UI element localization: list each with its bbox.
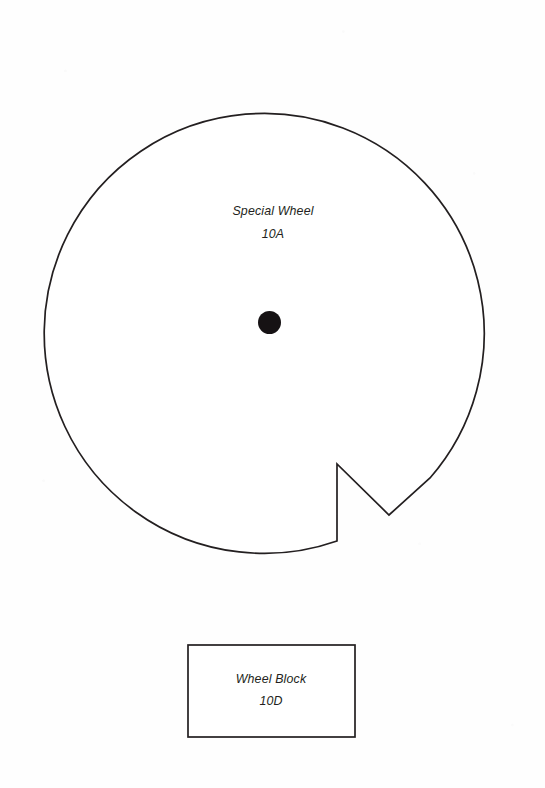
- drawing-sheet: Special Wheel 10A Wheel Block 10D: [0, 0, 545, 788]
- special-wheel-title: Special Wheel: [232, 204, 314, 218]
- wheel-block-outline-rect[interactable]: [188, 645, 355, 737]
- wheel-block-part[interactable]: Wheel Block 10D: [188, 645, 355, 737]
- wheel-center-hub-icon: [258, 311, 281, 334]
- wheel-outline-path[interactable]: [44, 113, 484, 553]
- special-wheel-part-number: 10A: [262, 227, 285, 241]
- technical-drawing-canvas: Special Wheel 10A Wheel Block 10D: [0, 0, 545, 788]
- wheel-block-title: Wheel Block: [236, 672, 307, 686]
- wheel-block-part-number: 10D: [259, 694, 282, 708]
- special-wheel-part[interactable]: Special Wheel 10A: [44, 113, 484, 553]
